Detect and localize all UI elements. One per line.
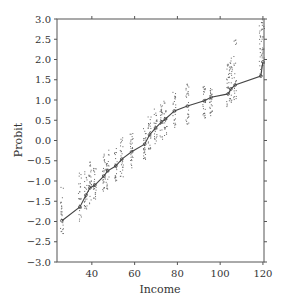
fit-line-markers — [61, 61, 265, 223]
x-axis-label: Income — [139, 283, 180, 296]
x-tick-label: 120 — [253, 268, 272, 279]
x-tick-label: 100 — [211, 268, 230, 279]
y-tick-label: 1.5 — [35, 74, 51, 85]
y-tick-label: 2.5 — [35, 34, 51, 45]
y-tick-label: 0.0 — [35, 135, 51, 146]
y-axis-label: Probit — [12, 122, 25, 157]
y-tick-label: 0.5 — [35, 115, 51, 126]
x-tick-label: 40 — [85, 268, 98, 279]
x-tick-label: 60 — [128, 268, 141, 279]
fitted-line — [62, 62, 263, 221]
probit-income-chart: 3.02.52.01.51.00.50.0−0.5−1.0−1.5−2.0−2.… — [0, 0, 289, 303]
y-tick-label: −1.5 — [27, 196, 51, 207]
x-axis-ticks: 406080100120 — [85, 16, 272, 279]
y-tick-label: −2.0 — [27, 216, 51, 227]
y-tick-label: 2.0 — [35, 54, 51, 65]
y-tick-label: −2.5 — [27, 236, 51, 247]
scatter-points — [60, 19, 265, 234]
y-tick-label: 3.0 — [35, 14, 51, 25]
y-tick-label: −3.0 — [27, 257, 51, 268]
y-tick-label: −1.0 — [27, 176, 51, 187]
plot-frame — [57, 19, 264, 262]
y-tick-label: −0.5 — [27, 155, 51, 166]
y-tick-label: 1.0 — [35, 95, 51, 106]
x-tick-label: 80 — [171, 268, 184, 279]
